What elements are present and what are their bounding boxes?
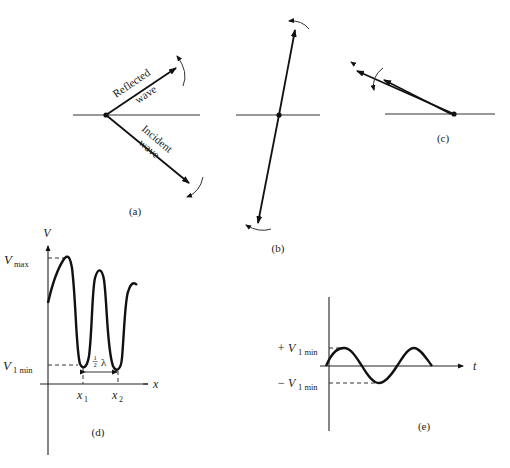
rotation-arrow-icon — [187, 177, 203, 197]
caption-e: (e) — [418, 420, 431, 433]
panel-e: t + V 1 min − V 1 min (e) — [277, 297, 477, 433]
vmin-subscript: 1 min — [13, 365, 33, 375]
x2-label: x — [111, 388, 118, 402]
origin-dot — [451, 111, 456, 116]
x2-subscript: 2 — [119, 395, 123, 404]
half-num: 1 — [93, 354, 96, 361]
origin-dot — [103, 112, 108, 117]
plus-vmin-label: + V — [277, 341, 297, 355]
minus-vmin-label: − V — [277, 376, 297, 390]
rotation-arrow-icon — [289, 21, 309, 29]
panel-d: V x V max V 1 min x 1 x 2 1 2 λ (d) — [3, 226, 159, 455]
caption-b: (b) — [272, 242, 285, 255]
caption-c: (c) — [437, 132, 450, 145]
x-axis-label: x — [152, 377, 159, 391]
minus-vmin-subscript: 1 min — [298, 382, 318, 392]
vector-short — [384, 80, 451, 114]
vmax-subscript: max — [14, 259, 29, 269]
rotation-arrow-icon — [177, 56, 185, 86]
caption-d: (d) — [92, 426, 105, 439]
rotation-arrow-icon — [351, 62, 354, 64]
panel-a: Reflected wave Incident wave (a) — [73, 56, 203, 218]
x1-label: x — [76, 388, 83, 402]
x1-subscript: 1 — [84, 395, 88, 404]
vmax-label: V — [4, 252, 14, 267]
voltage-curve — [48, 257, 137, 370]
vector-up — [279, 30, 295, 115]
standing-wave-figure: Reflected wave Incident wave (a) (b) (c) — [0, 0, 510, 468]
panel-c: (c) — [351, 62, 495, 145]
caption-a: (a) — [129, 205, 142, 218]
t-axis-label: t — [473, 359, 477, 373]
panel-b: (b) — [236, 21, 320, 255]
rotation-arrow-icon — [373, 68, 383, 90]
y-axis-label: V — [43, 226, 52, 240]
rotation-arrow-icon — [246, 225, 271, 230]
plus-vmin-subscript: 1 min — [298, 347, 318, 357]
vmin-label: V — [3, 358, 13, 373]
half-den: 2 — [93, 361, 96, 368]
lambda-label: λ — [101, 356, 107, 368]
origin-dot — [276, 112, 281, 117]
vector-down — [258, 115, 279, 223]
